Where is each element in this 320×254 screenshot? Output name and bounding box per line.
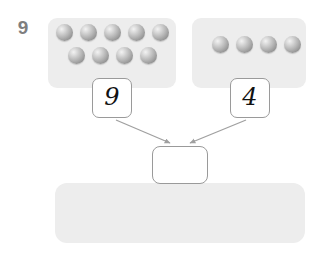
ball: [128, 24, 145, 41]
ball: [284, 36, 301, 53]
ball: [236, 36, 253, 53]
ball: [80, 24, 97, 41]
ball: [104, 24, 121, 41]
ball: [140, 47, 157, 64]
number-card-left[interactable]: 9: [92, 78, 132, 118]
ball: [212, 36, 229, 53]
ball: [152, 24, 169, 41]
ball: [56, 24, 73, 41]
ball: [260, 36, 277, 53]
total-label: 9: [8, 16, 38, 40]
number-card-right[interactable]: 4: [230, 78, 270, 118]
number-card-right-value: 4: [242, 85, 257, 109]
answer-box[interactable]: [152, 146, 208, 184]
bottom-tray-panel[interactable]: [55, 183, 305, 243]
ball: [68, 47, 85, 64]
ball: [92, 47, 109, 64]
arrow-left-to-answer: [116, 120, 170, 143]
number-card-left-value: 9: [104, 85, 119, 109]
worksheet-canvas: 9 9 4: [0, 0, 320, 254]
arrow-right-to-answer: [190, 120, 246, 143]
ball: [116, 47, 133, 64]
